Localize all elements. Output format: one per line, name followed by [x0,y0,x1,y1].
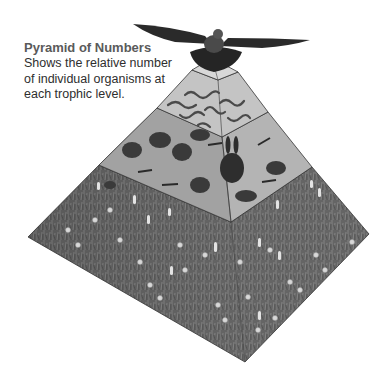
eagle-icon [133,24,310,72]
pyramid-illustration [0,0,392,384]
